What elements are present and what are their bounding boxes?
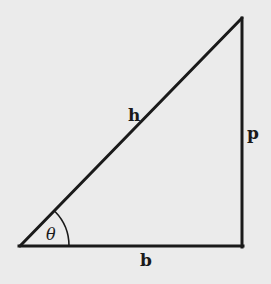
angle-arc — [55, 212, 69, 247]
perpendicular-label: p — [247, 123, 259, 143]
hypotenuse-line — [20, 18, 242, 246]
base-label: b — [140, 250, 152, 270]
hypotenuse-label: h — [128, 105, 140, 125]
right-triangle-diagram: h p b θ — [0, 0, 271, 284]
angle-theta-label: θ — [46, 225, 56, 244]
